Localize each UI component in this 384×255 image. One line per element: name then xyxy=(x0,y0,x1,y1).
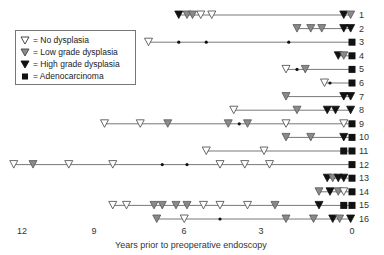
patient-label: 15 xyxy=(359,200,369,210)
patient-row-16 xyxy=(153,215,355,223)
patient-row-10 xyxy=(282,133,356,141)
patient-label: 12 xyxy=(359,160,369,170)
legend-label: = Low grade dysplasia xyxy=(33,47,118,57)
adenocarcinoma-marker xyxy=(349,66,356,73)
adenocarcinoma-marker xyxy=(349,188,356,195)
gray-triangle-icon xyxy=(20,48,30,57)
adenocarcinoma-marker xyxy=(340,148,347,155)
dot-marker xyxy=(218,217,221,220)
patient-row-14 xyxy=(315,188,356,196)
legend-item-adenocarcinoma: = Adenocarcinoma xyxy=(20,70,131,82)
adenocarcinoma-marker xyxy=(349,120,356,127)
adenocarcinoma-marker xyxy=(349,148,356,155)
patient-label: 4 xyxy=(359,51,364,61)
x-tick-0: 0 xyxy=(349,226,354,236)
patient-label: 5 xyxy=(359,64,364,74)
patient-label: 13 xyxy=(359,173,369,183)
adenocarcinoma-marker xyxy=(349,52,356,59)
dot-marker xyxy=(185,163,188,166)
patient-label: 7 xyxy=(359,92,364,102)
black-square-icon xyxy=(20,72,30,81)
dot-marker xyxy=(287,41,290,44)
x-tick-6: 6 xyxy=(181,226,186,236)
x-axis-title: Years prior to preoperative endoscopy xyxy=(115,240,267,250)
patient-label: 16 xyxy=(359,214,369,224)
patient-row-11 xyxy=(202,147,355,155)
patient-row-8 xyxy=(230,106,355,114)
patient-row-3 xyxy=(145,38,356,46)
patient-label: 1 xyxy=(359,10,364,20)
dot-marker xyxy=(161,163,164,166)
patient-row-13 xyxy=(323,174,355,182)
patient-row-7 xyxy=(282,93,355,101)
patient-label: 8 xyxy=(359,105,364,115)
patient-label: 3 xyxy=(359,37,364,47)
x-tick-3: 3 xyxy=(258,226,263,236)
patient-row-2 xyxy=(293,25,355,32)
patient-label: 10 xyxy=(359,132,369,142)
legend-label: = High grade dysplasia xyxy=(33,59,120,69)
patient-label: 2 xyxy=(359,24,364,34)
patient-row-12 xyxy=(10,161,356,169)
legend-label: = Adenocarcinoma xyxy=(33,71,104,81)
x-tick-9: 9 xyxy=(91,226,96,236)
adenocarcinoma-marker xyxy=(340,202,347,209)
patient-row-15 xyxy=(109,201,356,209)
legend-item-high-grade: = High grade dysplasia xyxy=(20,58,131,70)
patient-label: 9 xyxy=(359,119,364,129)
patient-label: 14 xyxy=(359,187,369,197)
open-triangle-icon xyxy=(20,36,30,45)
adenocarcinoma-marker xyxy=(349,134,356,141)
patient-row-6 xyxy=(321,79,356,87)
adenocarcinoma-marker xyxy=(349,161,356,168)
legend-item-no-dysplasia: = No dysplasia xyxy=(20,34,131,46)
legend-item-low-grade: = Low grade dysplasia xyxy=(20,46,131,58)
dot-marker xyxy=(177,41,180,44)
dot-marker xyxy=(295,68,298,71)
dot-marker xyxy=(205,41,208,44)
patient-label: 6 xyxy=(359,78,364,88)
legend: = No dysplasia = Low grade dysplasia = H… xyxy=(15,30,136,85)
x-tick-12: 12 xyxy=(17,226,27,236)
black-triangle-icon xyxy=(20,60,30,69)
adenocarcinoma-marker xyxy=(349,39,356,46)
patient-row-4 xyxy=(334,52,355,60)
patient-row-1 xyxy=(175,11,355,19)
patient-row-9 xyxy=(101,120,356,128)
adenocarcinoma-marker xyxy=(349,202,356,209)
patient-row-5 xyxy=(282,65,356,73)
patient-label: 11 xyxy=(359,146,368,156)
legend-label: = No dysplasia xyxy=(33,35,89,45)
dot-marker xyxy=(328,81,331,84)
adenocarcinoma-marker xyxy=(349,80,356,87)
adenocarcinoma-marker xyxy=(349,175,356,182)
dot-marker xyxy=(238,122,241,125)
